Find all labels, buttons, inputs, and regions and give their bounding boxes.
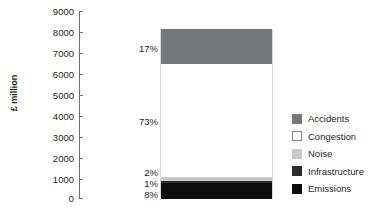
- y-tick-label: 3000: [22, 133, 74, 143]
- legend-swatch-icon: [292, 184, 302, 194]
- y-tick-label: 4000: [22, 112, 74, 122]
- bar-segment-emissions[interactable]: [161, 183, 272, 199]
- y-axis-tick: [79, 11, 83, 12]
- y-tick-label: 0: [22, 194, 74, 204]
- legend-item-infrastructure[interactable]: Infrastructure: [292, 163, 388, 181]
- bar-segment-accidents[interactable]: [161, 29, 272, 64]
- legend-swatch-icon: [292, 131, 302, 141]
- legend-item-accidents[interactable]: Accidents: [292, 110, 388, 128]
- segment-percent-emissions: 8%: [116, 190, 158, 200]
- y-axis-tick: [79, 116, 83, 117]
- stacked-bar-chart: £ million 9000 8000 7000 6000 5000 4000 …: [0, 0, 388, 217]
- y-tick-label: 7000: [22, 49, 74, 59]
- legend-item-congestion[interactable]: Congestion: [292, 128, 388, 146]
- y-axis-tick: [79, 179, 83, 180]
- y-axis-tick: [79, 198, 83, 199]
- legend-label: Accidents: [308, 113, 349, 124]
- y-axis-tick: [79, 74, 83, 75]
- legend-label: Noise: [308, 148, 332, 159]
- y-axis-tick-labels: 9000 8000 7000 6000 5000 4000 3000 2000 …: [22, 0, 74, 217]
- legend-label: Emissions: [308, 183, 351, 194]
- y-axis-tick: [79, 137, 83, 138]
- segment-percent-congestion: 73%: [116, 117, 158, 127]
- legend-label: Infrastructure: [308, 166, 364, 177]
- y-axis-tick: [79, 32, 83, 33]
- legend-swatch-icon: [292, 114, 302, 124]
- legend-item-emissions[interactable]: Emissions: [292, 180, 388, 198]
- y-tick-label: 8000: [22, 28, 74, 38]
- y-tick-label: 1000: [22, 175, 74, 185]
- segment-percent-accidents: 17%: [116, 44, 158, 54]
- y-tick-label: 2000: [22, 154, 74, 164]
- bar-segment-congestion[interactable]: [161, 64, 272, 177]
- y-axis-tick: [79, 95, 83, 96]
- y-tick-label: 5000: [22, 91, 74, 101]
- legend-swatch-icon: [292, 166, 302, 176]
- stacked-bar[interactable]: [160, 29, 273, 199]
- legend-label: Congestion: [308, 131, 356, 142]
- y-axis-title: £ million: [9, 58, 19, 128]
- legend: Accidents Congestion Noise Infrastructur…: [292, 110, 388, 198]
- segment-percent-noise: 2%: [116, 168, 158, 178]
- y-tick-label: 9000: [22, 7, 74, 17]
- y-axis-tick: [79, 53, 83, 54]
- y-tick-label: 6000: [22, 70, 74, 80]
- segment-percent-infrastructure: 1%: [116, 179, 158, 189]
- y-axis-line: [79, 11, 80, 199]
- legend-item-noise[interactable]: Noise: [292, 145, 388, 163]
- legend-swatch-icon: [292, 149, 302, 159]
- y-axis-tick: [79, 158, 83, 159]
